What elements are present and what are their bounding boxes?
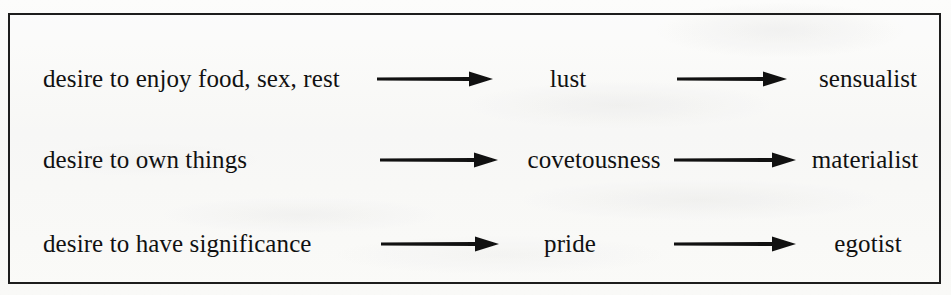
diagram-row: desire to enjoy food, sex, rest lust sen… — [10, 59, 939, 99]
diagram-row: desire to own things covetousness materi… — [10, 140, 939, 180]
row-middle-label: covetousness — [504, 140, 684, 180]
row-middle-label: pride — [508, 224, 632, 264]
row-target-label: materialist — [800, 140, 930, 180]
right-arrow-icon — [674, 224, 796, 264]
row-middle-label: lust — [508, 59, 628, 99]
right-arrow-icon — [381, 224, 499, 264]
row-source-label: desire to own things — [43, 140, 247, 180]
diagram-rows: desire to enjoy food, sex, rest lust sen… — [10, 15, 939, 282]
diagram-row: desire to have significance pride egotis… — [10, 224, 939, 264]
row-source-label: desire to enjoy food, sex, rest — [43, 59, 340, 99]
row-target-label: sensualist — [806, 59, 930, 99]
right-arrow-icon — [674, 140, 796, 180]
right-arrow-icon — [380, 140, 498, 180]
figure-frame: desire to enjoy food, sex, rest lust sen… — [8, 13, 941, 284]
right-arrow-icon — [677, 59, 787, 99]
right-arrow-icon — [377, 59, 493, 99]
row-target-label: egotist — [810, 224, 926, 264]
row-source-label: desire to have significance — [43, 224, 312, 264]
